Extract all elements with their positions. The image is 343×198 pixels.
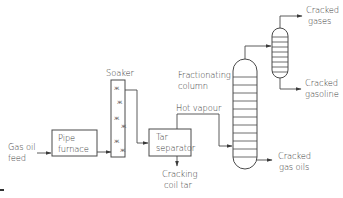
process-flow-diagram: Gas oil feed Pipe furnace Soaker ж ж ж ж… xyxy=(0,0,343,198)
svg-text:Cracking: Cracking xyxy=(162,169,198,179)
cracked-gasoline-label: Cracked gasoline xyxy=(305,78,339,99)
svg-text:furnace: furnace xyxy=(58,144,89,154)
tar-separator-box: Tar separator xyxy=(149,129,196,156)
svg-text:column: column xyxy=(178,81,208,91)
svg-text:Fractionating: Fractionating xyxy=(178,70,231,80)
cracking-coil-tar-label: Cracking coil tar xyxy=(162,169,198,190)
svg-text:ж: ж xyxy=(121,122,127,129)
soaker-to-separator-arrow xyxy=(125,90,148,143)
svg-text:gases: gases xyxy=(308,16,331,26)
svg-text:feed: feed xyxy=(8,153,26,163)
cracked-gas-oils-label: Cracked gas oils xyxy=(278,151,311,172)
cracked-gases-label: Cracked gases xyxy=(306,5,339,26)
soaker-label: Soaker xyxy=(106,68,135,78)
svg-text:separator: separator xyxy=(156,143,196,153)
svg-text:Cracked: Cracked xyxy=(306,5,339,15)
svg-text:Gas oil: Gas oil xyxy=(8,142,35,152)
secondary-column xyxy=(272,28,288,78)
svg-text:Tar: Tar xyxy=(156,132,169,142)
gasoline-arrow xyxy=(280,78,301,89)
svg-text:Cracked: Cracked xyxy=(278,151,311,161)
corner-mark xyxy=(0,189,4,191)
svg-text:Pipe: Pipe xyxy=(58,133,75,143)
gases-arrow xyxy=(280,16,302,28)
svg-text:ж: ж xyxy=(114,137,120,144)
svg-text:ж: ж xyxy=(120,146,126,153)
pipe-furnace-box: Pipe furnace xyxy=(52,130,97,156)
svg-text:ж: ж xyxy=(117,98,123,105)
fractionating-column-label: Fractionating column xyxy=(178,70,231,91)
svg-text:ж: ж xyxy=(114,114,120,121)
column-overhead-arrow xyxy=(245,46,271,59)
soaker-vessel: ж ж ж ж ж ж xyxy=(111,80,127,157)
gas-oil-feed-label: Gas oil feed xyxy=(8,142,35,163)
fractionating-column xyxy=(233,59,257,169)
svg-text:Cracked: Cracked xyxy=(305,78,338,88)
svg-text:gas oils: gas oils xyxy=(279,162,309,172)
svg-text:ж: ж xyxy=(114,84,120,91)
svg-text:gasoline: gasoline xyxy=(305,89,339,99)
svg-text:coil tar: coil tar xyxy=(164,180,193,190)
hot-vapour-label: Hot vapour xyxy=(176,103,222,113)
